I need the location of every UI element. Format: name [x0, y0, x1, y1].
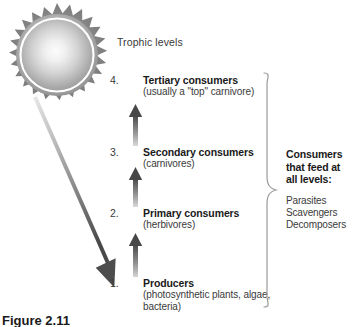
food-chain-diagram: Trophic levels 4. Tertiary consumers (us…	[0, 0, 355, 327]
figure-caption: Figure 2.11	[2, 313, 70, 327]
consumers-side-note: Consumers that feed at all levels: Paras…	[286, 148, 354, 231]
side-note-item-parasites: Parasites	[286, 195, 354, 207]
side-note-item-scavengers: Scavengers	[286, 207, 354, 219]
level-1-number: 1.	[110, 277, 132, 289]
level-4-number: 4.	[110, 74, 132, 86]
energy-flow-arrow-secondary-to-tertiary	[128, 104, 143, 146]
consumers-brace	[262, 72, 284, 308]
side-note-list: Parasites Scavengers Decomposers	[286, 195, 354, 231]
energy-flow-arrow-primary-to-secondary	[128, 167, 143, 207]
level-2-number: 2.	[110, 207, 132, 219]
energy-flow-arrow-producers-to-primary	[128, 233, 143, 277]
level-3-number: 3.	[110, 146, 132, 158]
side-note-title: Consumers that feed at all levels:	[286, 148, 354, 186]
side-note-item-decomposers: Decomposers	[286, 219, 354, 231]
trophic-levels-header: Trophic levels	[117, 36, 183, 48]
